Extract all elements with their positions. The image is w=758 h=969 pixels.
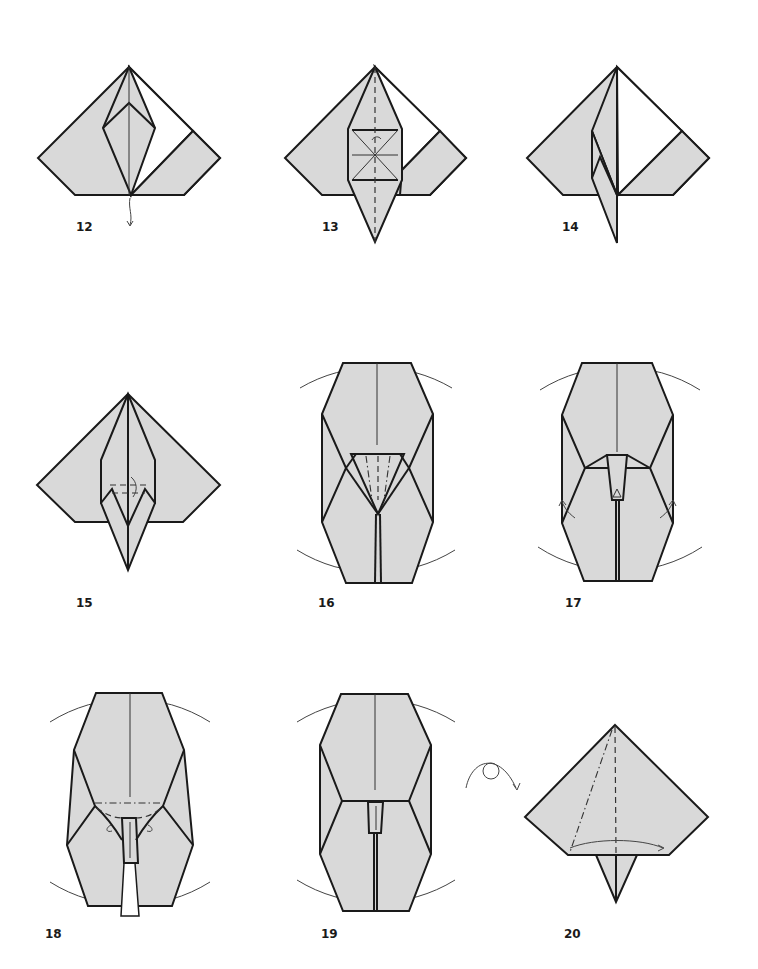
step-13: 13 [285, 67, 466, 242]
step-label-16: 16 [318, 596, 335, 610]
step-label-18: 18 [45, 927, 62, 941]
step-label-12: 12 [76, 220, 93, 234]
step-15: 15 [37, 394, 220, 610]
step-14: 14 [527, 67, 709, 243]
step-label-15: 15 [76, 596, 93, 610]
step-label-17: 17 [565, 596, 582, 610]
step-label-20: 20 [564, 927, 581, 941]
step-12: 12 [38, 67, 220, 234]
origami-diagram: 12 13 14 15 [0, 0, 758, 969]
step-18: 18 [45, 693, 210, 941]
step-19: 19 [297, 694, 455, 941]
step-17: 17 [538, 363, 702, 610]
step-label-19: 19 [321, 927, 338, 941]
step-20: 20 [525, 725, 708, 941]
step-label-13: 13 [322, 220, 339, 234]
step-label-14: 14 [562, 220, 579, 234]
step-16: 16 [297, 363, 455, 610]
turn-over-icon [466, 763, 520, 790]
